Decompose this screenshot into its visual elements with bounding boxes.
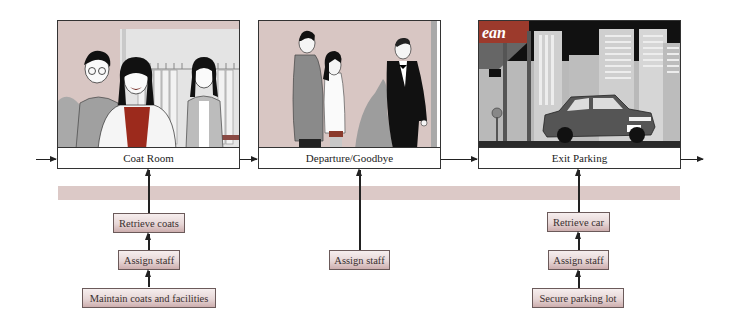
task-assign-staff: Assign staff [548, 250, 609, 270]
flow-arrow-2-3 [441, 159, 477, 160]
coat-room-illustration [58, 21, 239, 149]
stage-label: Coat Room [58, 147, 239, 168]
connector-arrow [578, 233, 580, 250]
connector-arrow [578, 170, 580, 212]
flow-arrow-in [36, 159, 56, 160]
connector-arrow [148, 271, 150, 287]
task-secure-parking-lot: Secure parking lot [532, 288, 624, 308]
flow-arrow-out [681, 159, 703, 160]
connector-arrow [148, 234, 150, 250]
flow-arrow-1-2 [240, 159, 257, 160]
task-maintain-coats-facilities: Maintain coats and facilities [82, 288, 216, 308]
connector-arrow [359, 170, 361, 250]
stage-coat-room: Coat Room [57, 20, 240, 169]
stage-departure-goodbye: Departure/Goodbye [258, 20, 441, 169]
task-assign-staff: Assign staff [118, 250, 180, 270]
svg-text:ean: ean [482, 24, 506, 41]
connector-arrow [148, 170, 150, 213]
connector-arrow [578, 271, 580, 288]
stage-label: Departure/Goodbye [259, 147, 440, 168]
task-assign-staff: Assign staff [329, 250, 390, 270]
parking-illustration: ean [479, 21, 680, 149]
stage-exit-parking: ean Exit Parking [478, 20, 681, 169]
task-retrieve-car: Retrieve car [547, 212, 610, 232]
line-of-interaction-band [58, 186, 680, 200]
stage-label: Exit Parking [479, 147, 680, 168]
departure-illustration [259, 21, 440, 149]
task-retrieve-coats: Retrieve coats [113, 213, 185, 233]
